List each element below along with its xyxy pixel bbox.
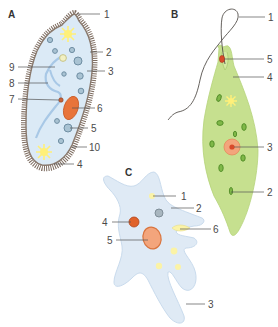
paramylon-body bbox=[225, 95, 237, 107]
euglena-nucleolus bbox=[229, 144, 234, 149]
panel-c: C 1 2 3 4 5 6 bbox=[102, 167, 219, 323]
label-b-5: 5 bbox=[267, 54, 273, 65]
label-c-6: 6 bbox=[213, 224, 219, 235]
protist-diagram: A bbox=[0, 0, 278, 327]
label-a-8: 8 bbox=[9, 78, 15, 89]
label-a-5: 5 bbox=[91, 123, 97, 134]
label-a-10: 10 bbox=[89, 142, 101, 153]
eyespot bbox=[219, 55, 224, 62]
contractile-vacuole-bottom bbox=[36, 144, 52, 160]
label-c-2: 2 bbox=[196, 203, 202, 214]
label-b-1: 1 bbox=[268, 12, 274, 23]
label-a-7: 7 bbox=[9, 94, 15, 105]
label-a-6: 6 bbox=[97, 103, 103, 114]
forming-vacuole bbox=[60, 55, 67, 62]
panel-a: A bbox=[8, 9, 114, 170]
panel-letter-c: C bbox=[125, 167, 132, 178]
label-a-3: 3 bbox=[108, 66, 114, 77]
contractile-vacuole-top bbox=[60, 26, 76, 42]
label-c-3: 3 bbox=[208, 299, 214, 310]
label-a-1: 1 bbox=[104, 9, 110, 20]
label-b-2: 2 bbox=[267, 187, 273, 198]
label-a-9: 9 bbox=[9, 62, 15, 73]
label-c-5: 5 bbox=[107, 235, 113, 246]
label-b-4: 4 bbox=[267, 72, 273, 83]
label-a-4: 4 bbox=[77, 159, 83, 170]
inclusion bbox=[155, 209, 163, 217]
label-a-2: 2 bbox=[106, 47, 112, 58]
micronucleus bbox=[59, 98, 63, 102]
panel-letter-b: B bbox=[171, 9, 178, 20]
label-c-4: 4 bbox=[102, 217, 108, 228]
label-c-1: 1 bbox=[181, 191, 187, 202]
label-b-3: 3 bbox=[267, 142, 273, 153]
panel-letter-a: A bbox=[8, 9, 15, 20]
